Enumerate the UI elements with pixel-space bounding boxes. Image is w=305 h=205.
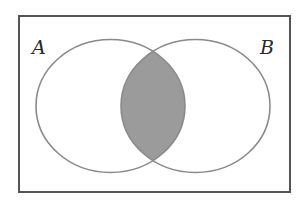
set-a-label: A: [30, 36, 46, 58]
set-b-label: B: [259, 36, 274, 58]
venn-diagram: A B: [0, 0, 305, 205]
